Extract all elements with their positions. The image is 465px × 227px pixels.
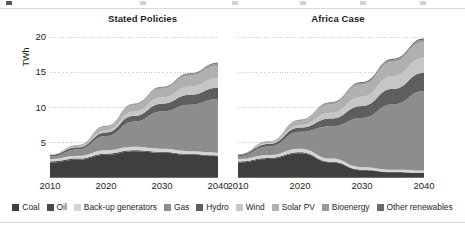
legend-swatch-icon xyxy=(272,204,279,211)
legend-item[interactable]: Oil xyxy=(47,203,67,211)
x-axis-labels-right: 2010202020302040 xyxy=(238,180,424,194)
y-tick-label: 15 xyxy=(20,67,46,77)
x-tick-label: 2020 xyxy=(95,180,116,191)
legend-label: Gas xyxy=(174,203,189,211)
y-tick-label: 5 xyxy=(20,138,46,148)
legend-label: Other renewables xyxy=(387,203,453,211)
legend-label: Bioenergy xyxy=(332,203,370,211)
stacked-area-plot xyxy=(238,30,424,178)
legend-item[interactable]: Solar PV xyxy=(272,203,315,211)
legend-item[interactable]: Coal xyxy=(12,203,39,211)
x-tick-label: 2030 xyxy=(151,180,172,191)
legend-swatch-icon xyxy=(196,204,203,211)
legend-swatch-icon xyxy=(47,204,54,211)
x-tick-label: 2040 xyxy=(207,180,228,191)
x-tick-label: 2010 xyxy=(227,180,248,191)
divider-bottom xyxy=(0,222,465,223)
legend-item[interactable]: Bioenergy xyxy=(322,203,370,211)
legend-label: Oil xyxy=(57,203,67,211)
x-tick-label: 2020 xyxy=(289,180,310,191)
x-axis-labels-left: 2010202020302040 xyxy=(50,180,218,194)
legend-swatch-icon xyxy=(377,204,384,211)
chart-africa-case xyxy=(238,30,424,178)
legend-item[interactable]: Wind xyxy=(236,203,265,211)
legend-swatch-icon xyxy=(236,204,243,211)
x-tick-label: 2040 xyxy=(413,180,434,191)
legend-label: Wind xyxy=(246,203,265,211)
x-tick-label: 2030 xyxy=(351,180,372,191)
chart-legend: CoalOilBack-up generatorsGasHydroWindSol… xyxy=(0,203,465,211)
y-axis: TWh 5101520 xyxy=(14,0,46,227)
legend-swatch-icon xyxy=(164,204,171,211)
cropped-text-strip xyxy=(0,0,465,7)
stacked-area-plot xyxy=(50,30,218,178)
x-tick-label: 2010 xyxy=(39,180,60,191)
legend-item[interactable]: Other renewables xyxy=(377,203,453,211)
legend-label: Back-up generators xyxy=(84,203,157,211)
divider-top xyxy=(0,8,465,9)
legend-item[interactable]: Gas xyxy=(164,203,189,211)
figure-root: Stated Policies Africa Case TWh 5101520 … xyxy=(0,0,465,227)
legend-item[interactable]: Back-up generators xyxy=(74,203,157,211)
panel-title-africa-case: Africa Case xyxy=(248,13,428,24)
y-tick-label: 20 xyxy=(20,32,46,42)
chart-stated-policies xyxy=(50,30,218,178)
legend-swatch-icon xyxy=(322,204,329,211)
legend-item[interactable]: Hydro xyxy=(196,203,228,211)
panel-title-stated-policies: Stated Policies xyxy=(60,13,225,24)
legend-label: Coal xyxy=(22,203,39,211)
y-tick-label: 10 xyxy=(20,103,46,113)
legend-label: Solar PV xyxy=(282,203,315,211)
legend-swatch-icon xyxy=(74,204,81,211)
legend-swatch-icon xyxy=(12,204,19,211)
legend-label: Hydro xyxy=(206,203,228,211)
